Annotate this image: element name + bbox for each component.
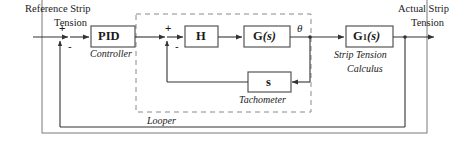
block-g1-label-arg: (s) [367,29,380,43]
junction-dot-theta [308,35,312,39]
inner-sum-minus-sign: - [175,41,179,52]
block-tachometer-caption: Tachometer [239,95,286,105]
block-g1-caption-line2: Calculus [347,64,383,74]
actual-output-label-line1: Actual Strip [398,4,449,15]
block-diagram-canvas: Reference Strip Tension Actual Strip Ten… [0,0,467,146]
block-pid-label: PID [98,30,120,43]
reference-input-label-line1: Reference Strip [25,4,91,15]
block-g1-caption-line1: Strip Tension [334,50,387,60]
signal-theta-label: θ [297,23,302,34]
block-pid-caption: Controller [90,49,132,59]
inner-sum-plus-sign: + [165,23,171,34]
outer-sum-minus-sign: - [68,41,72,52]
block-g-label-arg: (s) [263,29,276,43]
actual-output-label-line2: Tension [411,18,444,29]
block-g-label-main: G [253,29,263,43]
looper-group-label: Looper [147,116,176,126]
block-g1-label: G1(s) [353,30,380,43]
block-g-label: G(s) [253,30,276,43]
block-tachometer-label: s [266,76,271,89]
outer-sum-plus-sign: + [59,23,65,34]
block-h-label: H [196,30,206,43]
block-g1-label-main: G [353,29,363,43]
